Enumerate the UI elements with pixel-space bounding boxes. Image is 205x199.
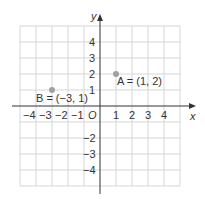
y-tick: −2 [83,133,96,144]
x-tick: −4 [23,110,36,121]
y-arrow-icon [97,14,103,21]
y-tick: −3 [83,149,96,160]
x-axis-label: x [190,111,196,122]
x-tick: −3 [39,110,52,121]
origin-label: O [88,110,97,121]
point-b-label: B = (−3, 1) [36,93,88,104]
axes [12,18,193,194]
x-tick: −2 [55,110,68,121]
y-tick: 3 [89,53,95,64]
y-tick: 2 [89,69,95,80]
x-arrow-icon [189,103,196,109]
x-tick: 3 [145,110,151,121]
y-tick: 1 [89,85,95,96]
x-tick: 1 [113,110,119,121]
coordinate-plane [0,0,205,199]
point-a-label: A = (1, 2) [117,76,162,87]
x-tick: −1 [71,110,84,121]
x-tick: 4 [161,110,167,121]
y-tick: −4 [83,165,96,176]
y-tick: 4 [89,37,95,48]
y-axis-label: y [91,11,97,22]
x-tick: 2 [129,110,135,121]
